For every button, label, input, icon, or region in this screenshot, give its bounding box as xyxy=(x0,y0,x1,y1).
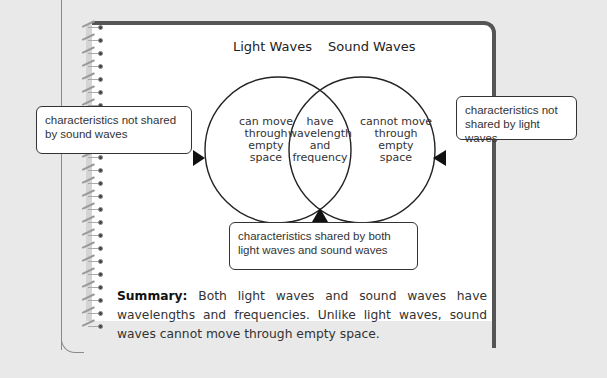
spiral-ring-icon xyxy=(78,321,108,331)
spiral-ring-icon xyxy=(78,191,108,201)
spiral-ring-icon xyxy=(78,243,108,253)
summary-label: Summary: xyxy=(117,289,188,303)
spiral-ring-icon xyxy=(78,282,108,292)
spiral-ring-icon xyxy=(78,308,108,318)
spiral-binding xyxy=(78,22,108,322)
spiral-ring-icon xyxy=(78,165,108,175)
spiral-ring-icon xyxy=(78,269,108,279)
spiral-ring-icon xyxy=(78,74,108,84)
spiral-ring-icon xyxy=(78,217,108,227)
callout-not-shared-by-light: characteristics not shared by light wave… xyxy=(456,96,577,140)
page-margin-curve xyxy=(61,330,84,353)
notebook-page xyxy=(92,21,496,321)
spiral-ring-icon xyxy=(78,35,108,45)
spiral-ring-icon xyxy=(78,48,108,58)
page-margin-line xyxy=(61,0,62,350)
spiral-ring-icon xyxy=(78,178,108,188)
notebook-edge-line xyxy=(492,318,496,348)
callout-shared-by-both: characteristics shared by both light wav… xyxy=(229,222,418,270)
callout-not-shared-by-sound: characteristics not shared by sound wave… xyxy=(36,106,192,154)
spiral-ring-icon xyxy=(78,22,108,32)
spiral-ring-icon xyxy=(78,230,108,240)
spiral-ring-icon xyxy=(78,61,108,71)
spiral-ring-icon xyxy=(78,87,108,97)
spiral-ring-icon xyxy=(78,256,108,266)
spiral-ring-icon xyxy=(78,295,108,305)
spiral-ring-icon xyxy=(78,204,108,214)
summary-paragraph: Summary: Both light waves and sound wave… xyxy=(117,287,487,344)
